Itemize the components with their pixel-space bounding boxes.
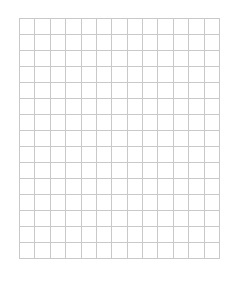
grid-paper	[19, 18, 220, 259]
grid-lines	[19, 18, 220, 259]
